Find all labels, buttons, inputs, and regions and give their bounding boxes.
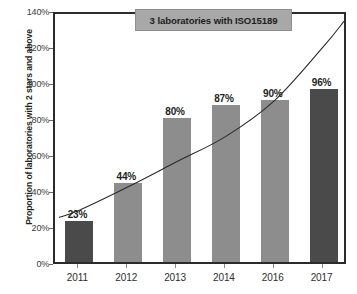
bar bbox=[65, 221, 93, 262]
iso-callout-box: 3 laboratories with ISO15189 bbox=[135, 9, 292, 31]
x-axis-tick-label: 2017 bbox=[292, 272, 352, 283]
bar-data-label: 96% bbox=[297, 77, 347, 88]
x-axis-tick-mark bbox=[126, 264, 127, 268]
bar bbox=[212, 105, 240, 262]
y-axis-tick-label: 120% bbox=[9, 43, 49, 53]
y-axis-tick-label: 60% bbox=[9, 151, 49, 161]
bar bbox=[261, 100, 289, 262]
y-axis-tick-label: 20% bbox=[9, 223, 49, 233]
y-axis-tick-label: 0% bbox=[9, 259, 49, 269]
bar bbox=[310, 89, 338, 262]
y-axis-tick-mark bbox=[49, 264, 53, 265]
trend-line bbox=[55, 14, 348, 266]
y-axis-tick-label: 80% bbox=[9, 115, 49, 125]
x-axis-tick-mark bbox=[224, 264, 225, 268]
bar-chart: Proportion of laboratories with 2 stars … bbox=[0, 0, 357, 294]
x-axis-tick-mark bbox=[322, 264, 323, 268]
y-axis-tick-label: 40% bbox=[9, 187, 49, 197]
x-axis-tick-mark bbox=[273, 264, 274, 268]
iso-callout-label: 3 laboratories with ISO15189 bbox=[150, 15, 278, 26]
x-axis-tick-mark bbox=[175, 264, 176, 268]
bar-data-label: 87% bbox=[199, 93, 249, 104]
plot-area bbox=[53, 12, 346, 264]
bar-data-label: 90% bbox=[248, 88, 298, 99]
y-axis-title: Proportion of laboratories with 2 stars … bbox=[24, 2, 34, 252]
bar bbox=[114, 183, 142, 262]
bar-data-label: 23% bbox=[52, 209, 102, 220]
bar-data-label: 80% bbox=[150, 106, 200, 117]
x-axis-tick-mark bbox=[77, 264, 78, 268]
y-axis-tick-label: 140% bbox=[9, 7, 49, 17]
bar bbox=[163, 118, 191, 262]
y-axis-tick-label: 100% bbox=[9, 79, 49, 89]
plot-inner bbox=[55, 14, 344, 262]
bar-data-label: 44% bbox=[101, 171, 151, 182]
